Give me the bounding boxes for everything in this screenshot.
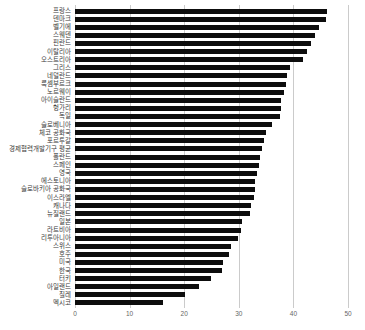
bar-row: 미국 bbox=[0, 258, 349, 266]
bar-row: 리투아니아 bbox=[0, 234, 349, 242]
bar bbox=[75, 17, 326, 22]
bar-row: 캐나다 bbox=[0, 202, 349, 210]
bar-rows: 프랑스덴마크벨기에스웨덴핀란드이탈리아오스트리아그리스네덜란드룩셈부르크노르웨이… bbox=[0, 7, 349, 307]
bar bbox=[75, 171, 257, 176]
category-label: 칠레 bbox=[0, 291, 75, 299]
bar bbox=[75, 268, 222, 273]
bar-row: 네덜란드 bbox=[0, 72, 349, 80]
category-label: 뉴질랜드 bbox=[0, 210, 75, 218]
x-tick-label: 30 bbox=[235, 310, 242, 318]
bar-row: 포르투갈 bbox=[0, 137, 349, 145]
bar bbox=[75, 155, 260, 160]
bar-row: 스웨덴 bbox=[0, 31, 349, 39]
bar bbox=[75, 33, 315, 38]
bar bbox=[75, 292, 185, 297]
category-label: 터키 bbox=[0, 275, 75, 283]
category-label: 독일 bbox=[0, 112, 75, 120]
bar bbox=[75, 98, 281, 103]
bar bbox=[75, 9, 327, 14]
bar bbox=[75, 228, 241, 233]
category-label: 네덜란드 bbox=[0, 72, 75, 80]
bar bbox=[75, 211, 250, 216]
bar-row: 노르웨이 bbox=[0, 88, 349, 96]
x-tick-label: 10 bbox=[126, 310, 133, 318]
category-label: 슬로베니아 bbox=[0, 121, 75, 129]
bar-row: 덴마크 bbox=[0, 15, 349, 23]
category-label: 벨기에 bbox=[0, 23, 75, 31]
category-label: 호주 bbox=[0, 250, 75, 258]
bar bbox=[75, 146, 262, 151]
bar-row: 에스토니아 bbox=[0, 177, 349, 185]
category-label: 오스트리아 bbox=[0, 56, 75, 64]
category-label: 포르투갈 bbox=[0, 137, 75, 145]
bar-row: 한국 bbox=[0, 267, 349, 275]
category-label: 프랑스 bbox=[0, 7, 75, 15]
bar bbox=[75, 163, 259, 168]
category-label: 라트비아 bbox=[0, 226, 75, 234]
x-tick-label: 50 bbox=[344, 310, 351, 318]
bar bbox=[75, 130, 266, 135]
bar bbox=[75, 260, 223, 265]
x-tick-label: 20 bbox=[181, 310, 188, 318]
bar bbox=[75, 300, 163, 305]
category-label: 아이슬란드 bbox=[0, 96, 75, 104]
bar-row: 이스라엘 bbox=[0, 194, 349, 202]
bar bbox=[75, 284, 199, 289]
bar-row: 경제협력개발기구 평균 bbox=[0, 145, 349, 153]
category-label: 스웨덴 bbox=[0, 31, 75, 39]
category-label: 경제협력개발기구 평균 bbox=[0, 145, 75, 153]
x-tick-label: 0 bbox=[73, 310, 77, 318]
bar-row: 그리스 bbox=[0, 64, 349, 72]
bar-row: 뉴질랜드 bbox=[0, 210, 349, 218]
bar bbox=[75, 252, 229, 257]
bar-row: 핀란드 bbox=[0, 39, 349, 47]
category-label: 캐나다 bbox=[0, 202, 75, 210]
category-label: 그리스 bbox=[0, 64, 75, 72]
bar bbox=[75, 219, 242, 224]
category-label: 한국 bbox=[0, 267, 75, 275]
bar bbox=[75, 82, 286, 87]
bar bbox=[75, 49, 307, 54]
bar-row: 슬로바키아 공화국 bbox=[0, 185, 349, 193]
bar-row: 아이슬란드 bbox=[0, 96, 349, 104]
bar bbox=[75, 244, 231, 249]
bar-row: 스페인 bbox=[0, 161, 349, 169]
bar bbox=[75, 73, 287, 78]
bar bbox=[75, 114, 280, 119]
bar-row: 독일 bbox=[0, 112, 349, 120]
bar bbox=[75, 276, 211, 281]
category-label: 헝가리 bbox=[0, 104, 75, 112]
bar-row: 영국 bbox=[0, 169, 349, 177]
bar bbox=[75, 179, 255, 184]
bar-row: 오스트리아 bbox=[0, 56, 349, 64]
bar-row: 이탈리아 bbox=[0, 48, 349, 56]
bar-row: 라트비아 bbox=[0, 226, 349, 234]
category-label: 룩셈부르크 bbox=[0, 80, 75, 88]
bar bbox=[75, 195, 254, 200]
bar bbox=[75, 138, 264, 143]
x-tick-label: 40 bbox=[290, 310, 297, 318]
bar-row: 터키 bbox=[0, 275, 349, 283]
bar-row: 체코 공화국 bbox=[0, 129, 349, 137]
bar-row: 멕시코 bbox=[0, 299, 349, 307]
category-label: 리투아니아 bbox=[0, 234, 75, 242]
category-label: 아일랜드 bbox=[0, 283, 75, 291]
category-label: 슬로바키아 공화국 bbox=[0, 185, 75, 193]
bar bbox=[75, 187, 255, 192]
bar-row: 폴란드 bbox=[0, 153, 349, 161]
bar-row: 헝가리 bbox=[0, 104, 349, 112]
bar-row: 아일랜드 bbox=[0, 283, 349, 291]
bar-row: 프랑스 bbox=[0, 7, 349, 15]
category-label: 체코 공화국 bbox=[0, 129, 75, 137]
bar-row: 일본 bbox=[0, 218, 349, 226]
category-label: 스위스 bbox=[0, 242, 75, 250]
bar bbox=[75, 65, 290, 70]
bar-row: 벨기에 bbox=[0, 23, 349, 31]
category-label: 노르웨이 bbox=[0, 88, 75, 96]
bar-row: 호주 bbox=[0, 250, 349, 258]
bar bbox=[75, 41, 311, 46]
bar bbox=[75, 122, 272, 127]
bar bbox=[75, 203, 251, 208]
bar bbox=[75, 236, 238, 241]
bar-row: 칠레 bbox=[0, 291, 349, 299]
